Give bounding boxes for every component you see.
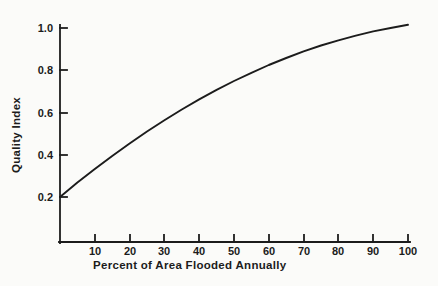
y-axis-title: Quality Index (10, 97, 22, 173)
y-tick-label: 0.2 (38, 191, 53, 203)
x-axis (59, 235, 410, 242)
x-tick-label: 80 (332, 245, 344, 257)
x-tick-label: 10 (89, 245, 101, 257)
x-tick-label: 30 (158, 245, 170, 257)
y-tick-labels: 1.0 0.8 0.6 0.4 0.2 (38, 22, 54, 203)
y-tick-label: 0.6 (38, 107, 53, 119)
x-tick-label: 70 (298, 245, 310, 257)
x-tick-label: 40 (193, 245, 205, 257)
x-axis-title: Percent of Area Flooded Annually (93, 259, 287, 271)
x-tick-label: 20 (124, 245, 136, 257)
y-axis (60, 25, 67, 243)
x-tick-label: 50 (228, 245, 240, 257)
x-tick-label: 60 (263, 245, 275, 257)
flood-quality-index-chart: 1.0 0.8 0.6 0.4 0.2 Quality Index 10 20 … (0, 0, 438, 286)
y-tick-label: 0.8 (38, 64, 53, 76)
chart-canvas: 1.0 0.8 0.6 0.4 0.2 Quality Index 10 20 … (0, 0, 438, 286)
y-tick-label: 0.4 (38, 149, 54, 161)
x-tick-label: 100 (399, 245, 417, 257)
x-tick-labels: 10 20 30 40 50 60 70 80 90 100 (89, 245, 417, 257)
x-tick-label: 90 (367, 245, 379, 257)
y-tick-label: 1.0 (38, 22, 53, 34)
quality-index-curve (60, 25, 408, 197)
